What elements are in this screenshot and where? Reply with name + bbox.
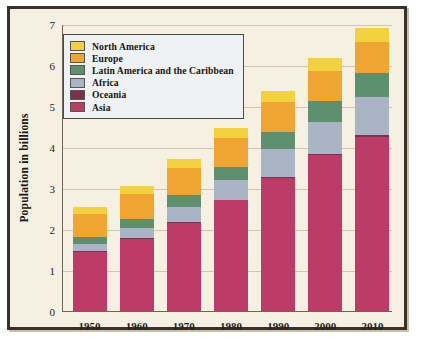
legend-label: Africa <box>92 77 119 88</box>
bar-segment <box>214 180 248 200</box>
legend-swatch-icon <box>70 78 85 88</box>
bar-segment <box>214 167 248 180</box>
y-tick-label: 0 <box>50 306 56 318</box>
y-tick-label: 7 <box>50 19 56 31</box>
bar-2000[interactable] <box>308 58 342 311</box>
legend-label: North America <box>92 41 155 52</box>
bar-segment <box>167 159 201 169</box>
x-tick-label: 2010 <box>361 320 383 332</box>
bar-segment <box>214 128 248 139</box>
bar-1970[interactable] <box>167 159 201 311</box>
bar-segment <box>261 132 295 149</box>
bar-segment <box>167 223 201 311</box>
legend-label: Latin America and the Caribbean <box>92 65 234 76</box>
y-axis-title: Population in billions <box>18 113 30 222</box>
bar-segment <box>308 58 342 71</box>
bar-segment <box>73 252 107 311</box>
bar-segment <box>214 138 248 166</box>
bar-segment <box>355 42 389 72</box>
legend-item[interactable]: Europe <box>70 52 234 64</box>
y-tick-label: 5 <box>50 101 56 113</box>
y-tick-label: 1 <box>50 265 56 277</box>
x-tick-label: 1990 <box>267 320 289 332</box>
bar-segment <box>167 168 201 195</box>
x-tick-label: 1970 <box>173 320 195 332</box>
chart-frame: 01234567 1950196019701980199020002010 Po… <box>7 6 407 330</box>
bar-segment <box>261 91 295 102</box>
x-tick-label: 1980 <box>220 320 242 332</box>
legend-swatch-icon <box>70 53 85 63</box>
bar-segment <box>308 122 342 154</box>
bar-segment <box>120 219 154 228</box>
legend-label: Europe <box>92 53 123 64</box>
bar-segment <box>308 71 342 101</box>
legend-swatch-icon <box>70 102 85 112</box>
bar-segment <box>261 102 295 132</box>
bar-segment <box>214 200 248 311</box>
x-tick-label: 1950 <box>79 320 101 332</box>
y-tick-label: 4 <box>50 142 56 154</box>
bar-segment <box>120 186 154 194</box>
bar-segment <box>73 207 107 214</box>
bar-segment <box>355 28 389 42</box>
bar-2010[interactable] <box>355 28 389 311</box>
legend-swatch-icon <box>70 65 85 75</box>
legend-swatch-icon <box>70 90 85 100</box>
legend-label: Oceania <box>92 89 126 100</box>
x-tick-label: 2000 <box>314 320 336 332</box>
bar-segment <box>167 195 201 206</box>
bar-segment <box>73 237 107 244</box>
y-tick-label: 6 <box>50 60 56 72</box>
legend-item[interactable]: North America <box>70 40 234 52</box>
legend-item[interactable]: Latin America and the Caribbean <box>70 64 234 76</box>
chart-legend: North AmericaEuropeLatin America and the… <box>63 34 244 119</box>
legend-swatch-icon <box>70 41 85 51</box>
legend-item[interactable]: Africa <box>70 77 234 89</box>
legend-item[interactable]: Oceania <box>70 89 234 101</box>
bar-segment <box>120 239 154 311</box>
bar-segment <box>167 207 201 222</box>
bar-segment <box>308 101 342 122</box>
x-tick-label: 1960 <box>126 320 148 332</box>
bar-segment <box>120 228 154 238</box>
y-tick-label: 3 <box>50 183 56 195</box>
bar-segment <box>355 73 389 97</box>
bar-1990[interactable] <box>261 91 295 311</box>
gridline <box>62 25 392 26</box>
legend-label: Asia <box>92 102 111 113</box>
bar-1950[interactable] <box>73 207 107 311</box>
bar-segment <box>73 214 107 237</box>
bar-1960[interactable] <box>120 186 154 311</box>
bar-segment <box>120 194 154 219</box>
bar-segment <box>308 155 342 311</box>
bar-segment <box>355 137 389 311</box>
x-axis-line <box>62 311 392 312</box>
bar-1980[interactable] <box>214 128 248 311</box>
bar-segment <box>261 149 295 176</box>
bar-segment <box>261 178 295 311</box>
y-tick-label: 2 <box>50 224 56 236</box>
bar-segment <box>355 97 389 135</box>
bar-segment <box>73 244 107 251</box>
legend-item[interactable]: Asia <box>70 101 234 113</box>
